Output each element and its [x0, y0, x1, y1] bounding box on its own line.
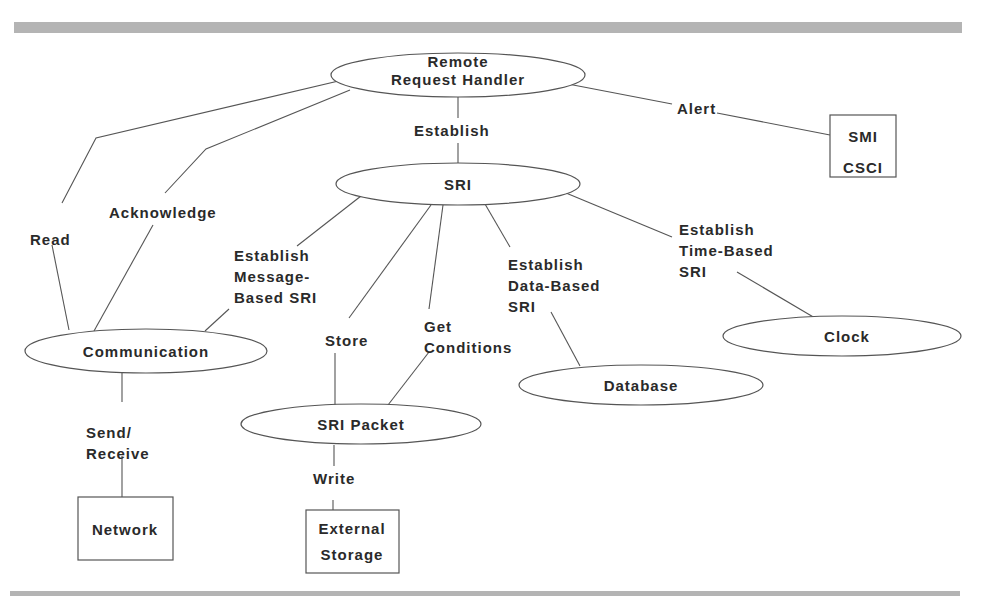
label-line: Store [325, 330, 368, 351]
node-network-label: Network [92, 519, 158, 540]
label-line: Database [604, 375, 679, 396]
label-line: Message- [234, 266, 317, 287]
connector-line [568, 84, 672, 104]
connector-line [485, 204, 510, 247]
label-line: SRI Packet [317, 414, 405, 435]
label-line: Based SRI [234, 287, 317, 308]
connector-line [349, 205, 431, 318]
label-line: Request Handler [391, 71, 525, 89]
label-line: Establish [414, 120, 490, 141]
label-line: SRI [679, 261, 774, 282]
label-line: SRI [444, 174, 472, 195]
connector-line [551, 312, 580, 366]
edge-establish-message-based-sri-label: EstablishMessage-Based SRI [234, 245, 317, 308]
node-remote-request-handler-label: RemoteRequest Handler [391, 53, 525, 89]
label-line: Acknowledge [109, 202, 217, 223]
label-line: Write [313, 468, 355, 489]
node-communication-label: Communication [83, 341, 209, 362]
connector-line [717, 113, 830, 135]
label-line: Read [30, 229, 71, 250]
connector-line [388, 352, 429, 405]
label-line: Alert [677, 98, 716, 119]
label-line: Establish [508, 254, 601, 275]
edge-acknowledge-label: Acknowledge [109, 202, 217, 223]
edge-establish-label: Establish [414, 120, 490, 141]
label-line: Establish [679, 219, 774, 240]
label-line: Network [92, 519, 158, 540]
label-line: Clock [824, 326, 870, 347]
label-line: Conditions [424, 337, 512, 358]
edge-write-label: Write [313, 468, 355, 489]
label-line: Receive [86, 443, 150, 464]
node-sri-packet-label: SRI Packet [317, 414, 405, 435]
label-line: Time-Based [679, 240, 774, 261]
label-line: Data-Based [508, 275, 601, 296]
label-line: SMI [843, 121, 883, 152]
label-line: Get [424, 316, 512, 337]
label-line: Communication [83, 341, 209, 362]
edges-layer [52, 79, 830, 510]
edge-store [335, 205, 431, 405]
connector-line [429, 205, 443, 309]
connector-line [52, 245, 69, 330]
connector-line [205, 309, 229, 331]
edge-alert-label: Alert [677, 98, 716, 119]
edge-establish-data-based-sri-label: EstablishData-BasedSRI [508, 254, 601, 317]
label-line: External [318, 516, 385, 542]
label-line: Establish [234, 245, 317, 266]
label-line: Send/ [86, 422, 150, 443]
label-line: SRI [508, 296, 601, 317]
nodes-layer [25, 53, 961, 573]
edge-get-conditions [388, 205, 443, 405]
connector-line [62, 79, 347, 203]
label-line: Remote [391, 53, 525, 71]
edge-store-label: Store [325, 330, 368, 351]
edge-establish-time-based-sri-label: EstablishTime-BasedSRI [679, 219, 774, 282]
node-sri-label: SRI [444, 174, 472, 195]
label-line: CSCI [843, 152, 883, 183]
connector-line [94, 225, 153, 331]
node-clock-label: Clock [824, 326, 870, 347]
label-line: Storage [318, 542, 385, 568]
edge-read-label: Read [30, 229, 71, 250]
edge-get-conditions-label: GetConditions [424, 316, 512, 358]
node-database-label: Database [604, 375, 679, 396]
edge-send-receive-label: Send/Receive [86, 422, 150, 464]
connector-line [297, 196, 361, 246]
node-external-storage-label: ExternalStorage [318, 516, 385, 568]
connector-line [165, 90, 350, 193]
node-smi-csci-label: SMICSCI [843, 121, 883, 183]
connector-line [566, 193, 672, 237]
